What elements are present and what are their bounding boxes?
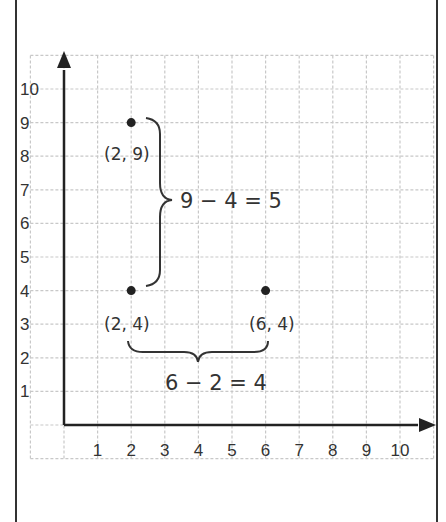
y-axis-tick-labels: 12345678910 bbox=[20, 80, 39, 401]
vertical-brace bbox=[146, 118, 172, 286]
x-tick-label: 1 bbox=[93, 441, 102, 460]
x-tick-label: 9 bbox=[362, 441, 371, 460]
y-tick-label: 3 bbox=[20, 315, 29, 334]
x-axis-tick-labels: 12345678910 bbox=[93, 441, 410, 460]
x-tick-label: 3 bbox=[160, 441, 169, 460]
y-axis-arrow-icon bbox=[57, 51, 71, 68]
x-axis-arrow-icon bbox=[419, 418, 436, 432]
y-tick-label: 6 bbox=[20, 214, 29, 233]
y-tick-label: 8 bbox=[20, 147, 29, 166]
x-tick-label: 10 bbox=[391, 441, 410, 460]
y-tick-label: 5 bbox=[20, 248, 29, 267]
y-tick-label: 4 bbox=[20, 282, 29, 301]
point-label-2-9: (2, 9) bbox=[104, 144, 150, 164]
vertical-distance-equation: 9 − 4 = 5 bbox=[180, 189, 282, 213]
data-point bbox=[127, 118, 136, 127]
y-tick-label: 10 bbox=[20, 80, 39, 99]
y-tick-label: 7 bbox=[20, 181, 29, 200]
y-tick-label: 1 bbox=[20, 382, 29, 401]
x-tick-label: 7 bbox=[294, 441, 303, 460]
x-tick-label: 4 bbox=[194, 441, 203, 460]
point-label-6-4: (6, 4) bbox=[249, 314, 295, 334]
y-tick-label: 2 bbox=[20, 349, 29, 368]
x-tick-label: 2 bbox=[126, 441, 135, 460]
x-tick-label: 6 bbox=[261, 441, 270, 460]
point-label-2-4: (2, 4) bbox=[104, 314, 150, 334]
x-tick-label: 5 bbox=[227, 441, 236, 460]
data-point bbox=[261, 286, 270, 295]
data-point bbox=[127, 286, 136, 295]
horizontal-distance-equation: 6 − 2 = 4 bbox=[165, 371, 267, 395]
grid-lines bbox=[30, 55, 433, 458]
y-tick-label: 9 bbox=[20, 114, 29, 133]
x-tick-label: 8 bbox=[328, 441, 337, 460]
